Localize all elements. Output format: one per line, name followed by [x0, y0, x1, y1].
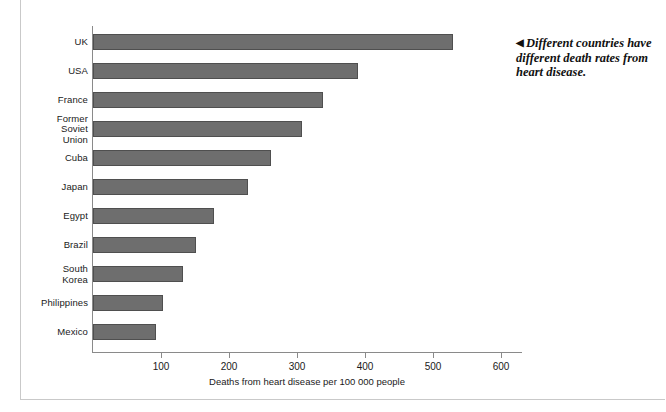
bar — [93, 324, 156, 340]
bar-row: Former Soviet Union — [0, 115, 666, 144]
bar-row: France — [0, 86, 666, 115]
bar — [93, 92, 323, 108]
category-label: France — [0, 95, 88, 106]
x-tick-mark — [229, 352, 230, 358]
x-tick-label: 500 — [413, 361, 453, 372]
x-axis-line — [92, 352, 522, 353]
bar — [93, 237, 196, 253]
left-triangle-icon: ◀ — [516, 36, 524, 51]
bar — [93, 208, 214, 224]
bar — [93, 150, 271, 166]
category-label: Egypt — [0, 211, 88, 222]
bar-row: Philippines — [0, 289, 666, 318]
category-label: UK — [0, 37, 88, 48]
x-tick-label: 300 — [277, 361, 317, 372]
category-label: Philippines — [0, 298, 88, 309]
bar — [93, 266, 183, 282]
bar — [93, 295, 163, 311]
bar-row: Egypt — [0, 202, 666, 231]
bar-row: South Korea — [0, 260, 666, 289]
bar — [93, 63, 358, 79]
bar — [93, 179, 248, 195]
figure-page: UKUSAFranceFormer Soviet UnionCubaJapanE… — [0, 0, 666, 412]
bar — [93, 121, 302, 137]
x-tick-mark — [501, 352, 502, 358]
bar-row: Cuba — [0, 144, 666, 173]
x-tick-label: 600 — [481, 361, 521, 372]
x-axis-title: Deaths from heart disease per 100 000 pe… — [92, 376, 522, 387]
x-tick-label: 400 — [345, 361, 385, 372]
category-label: Mexico — [0, 327, 88, 338]
category-label: Brazil — [0, 240, 88, 251]
category-label: USA — [0, 66, 88, 77]
caption-text: Different countries have different death… — [516, 36, 651, 79]
bar-row: Japan — [0, 173, 666, 202]
bar-row: Brazil — [0, 231, 666, 260]
category-label: Cuba — [0, 153, 88, 164]
x-tick-mark — [297, 352, 298, 358]
category-label: South Korea — [0, 264, 88, 285]
x-tick-mark — [161, 352, 162, 358]
x-tick-mark — [365, 352, 366, 358]
x-tick-label: 200 — [209, 361, 249, 372]
x-tick-label: 100 — [141, 361, 181, 372]
x-tick-mark — [433, 352, 434, 358]
category-label: Japan — [0, 182, 88, 193]
category-label: Former Soviet Union — [0, 114, 88, 146]
bar-row: Mexico — [0, 318, 666, 347]
figure-caption: ◀Different countries have different deat… — [516, 36, 662, 80]
bar — [93, 34, 453, 50]
